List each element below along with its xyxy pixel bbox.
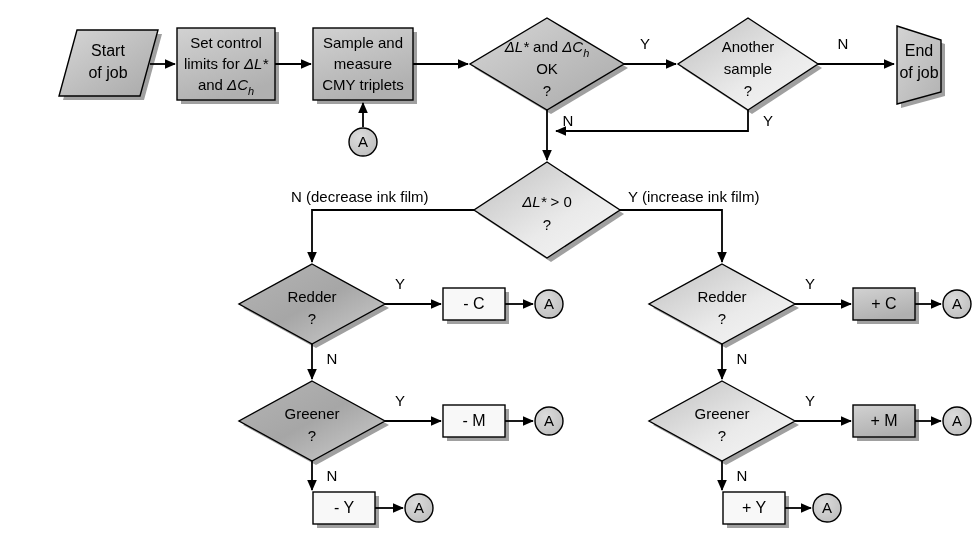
connector-a-minus-m[interactable]: A — [535, 407, 563, 435]
connector-a-minus-c-label: A — [544, 295, 554, 312]
node-minus-m-box[interactable]: - M — [443, 405, 505, 437]
node-start-of-job[interactable]: Start of job — [59, 30, 158, 96]
sample-label-line2: measure — [334, 55, 392, 72]
edge-label-delta-l-no: N (decrease ink film) — [291, 188, 429, 205]
edge-label-limits-ok-no: N — [563, 112, 574, 129]
start-label-line1: Start — [91, 42, 125, 59]
node-redder-left-decision[interactable]: Redder ? — [239, 264, 385, 344]
redder-right-label-line2: ? — [718, 310, 726, 327]
node-limits-ok-decision[interactable]: ΔL* and ΔCh OK ? — [470, 18, 624, 110]
edge-label-greener-left-no: N — [327, 467, 338, 484]
node-another-sample-decision[interactable]: Another sample ? — [678, 18, 818, 110]
node-plus-y-box[interactable]: + Y — [723, 492, 785, 524]
edge-label-redder-right-no: N — [737, 350, 748, 367]
minus-y-label: - Y — [334, 499, 354, 516]
connector-a-sample[interactable]: A — [349, 128, 377, 156]
edge-delta-l-yes-to-redder-right — [620, 210, 722, 262]
greener-right-label-line2: ? — [718, 427, 726, 444]
edge-label-redder-left-yes: Y — [395, 275, 405, 292]
limits-ok-label-line2: OK — [536, 60, 558, 77]
end-label-line1: End — [905, 42, 933, 59]
minus-m-label: - M — [462, 412, 485, 429]
node-plus-c-box[interactable]: + C — [853, 288, 915, 320]
edge-label-delta-l-yes: Y (increase ink film) — [628, 188, 759, 205]
start-label-line2: of job — [88, 64, 127, 81]
connector-a-minus-m-label: A — [544, 412, 554, 429]
greener-left-label-line2: ? — [308, 427, 316, 444]
edge-label-another-sample-yes: Y — [763, 112, 773, 129]
edge-another-sample-yes-feedback — [556, 110, 748, 131]
edge-label-greener-right-no: N — [737, 467, 748, 484]
plus-c-label: + C — [871, 295, 896, 312]
flow-edges — [150, 64, 941, 508]
edge-label-limits-ok-yes: Y — [640, 35, 650, 52]
set-limits-label-line1: Set control — [190, 34, 262, 51]
connector-a-plus-c[interactable]: A — [943, 290, 971, 318]
delta-l-label-line1: ΔL* > 0 — [521, 193, 572, 210]
greener-left-label-line1: Greener — [284, 405, 339, 422]
another-sample-label-line3: ? — [744, 82, 752, 99]
sample-label-line3: CMY triplets — [322, 76, 403, 93]
edge-delta-l-no-to-redder-left — [312, 210, 474, 262]
sample-label-line1: Sample and — [323, 34, 403, 51]
end-label-line2: of job — [899, 64, 938, 81]
node-minus-c-box[interactable]: - C — [443, 288, 505, 320]
connector-a-plus-c-label: A — [952, 295, 962, 312]
another-sample-label-line2: sample — [724, 60, 772, 77]
greener-right-label-line1: Greener — [694, 405, 749, 422]
node-redder-right-decision[interactable]: Redder ? — [649, 264, 795, 344]
node-sample-and-measure[interactable]: Sample and measure CMY triplets — [313, 28, 413, 100]
another-sample-label-line1: Another — [722, 38, 775, 55]
node-set-control-limits[interactable]: Set control limits for ΔL* and ΔCh — [177, 28, 275, 100]
edge-label-redder-left-no: N — [327, 350, 338, 367]
edge-label-redder-right-yes: Y — [805, 275, 815, 292]
connector-a-sample-label: A — [358, 133, 368, 150]
plus-y-label: + Y — [742, 499, 767, 516]
minus-c-label: - C — [463, 295, 484, 312]
node-end-of-job[interactable]: End of job — [897, 26, 941, 104]
plus-m-label: + M — [870, 412, 897, 429]
node-greener-right-decision[interactable]: Greener ? — [649, 381, 795, 461]
connector-a-minus-y[interactable]: A — [405, 494, 433, 522]
connector-a-minus-y-label: A — [414, 499, 424, 516]
flowchart-container: Start of job Set control limits for ΔL* … — [0, 0, 977, 555]
connector-a-plus-m[interactable]: A — [943, 407, 971, 435]
edge-label-greener-right-yes: Y — [805, 392, 815, 409]
node-delta-l-positive-decision[interactable]: ΔL* > 0 ? — [474, 162, 620, 258]
node-greener-left-decision[interactable]: Greener ? — [239, 381, 385, 461]
connector-a-minus-c[interactable]: A — [535, 290, 563, 318]
redder-right-label-line1: Redder — [697, 288, 746, 305]
connector-a-plus-m-label: A — [952, 412, 962, 429]
node-minus-y-box[interactable]: - Y — [313, 492, 375, 524]
redder-left-label-line1: Redder — [287, 288, 336, 305]
connector-a-plus-y-label: A — [822, 499, 832, 516]
node-plus-m-box[interactable]: + M — [853, 405, 915, 437]
set-limits-label-line2: limits for ΔL* — [184, 55, 269, 72]
limits-ok-label-line3: ? — [543, 82, 551, 99]
edge-label-another-sample-no: N — [838, 35, 849, 52]
flowchart-svg: Start of job Set control limits for ΔL* … — [0, 0, 977, 555]
delta-l-label-line2: ? — [543, 216, 551, 233]
connector-a-plus-y[interactable]: A — [813, 494, 841, 522]
edge-label-greener-left-yes: Y — [395, 392, 405, 409]
redder-left-label-line2: ? — [308, 310, 316, 327]
